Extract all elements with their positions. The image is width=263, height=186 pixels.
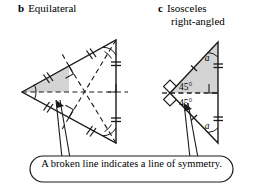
- isosceles-angle-label-upper: 45°: [179, 82, 193, 92]
- caption-label: A broken line indicates a line of symmet…: [0, 158, 263, 169]
- equilateral-angle-arc-left-lower: [34, 92, 36, 100]
- equilateral-right-angle-mark-centre: [108, 84, 116, 92]
- equilateral-triangle-group: [22, 40, 128, 143]
- isosceles-side-label-upper: a: [205, 53, 210, 63]
- isosceles-side-label-lower: a: [205, 121, 210, 131]
- equilateral-symmetry-line-from-bottom: [69, 66, 116, 143]
- callout-leader-lines: [56, 100, 198, 158]
- geometry-figure-page: bEquilateral cIsosceles right-angled: [0, 0, 263, 186]
- equilateral-symmetry-line-from-bottom-extension: [61, 52, 69, 66]
